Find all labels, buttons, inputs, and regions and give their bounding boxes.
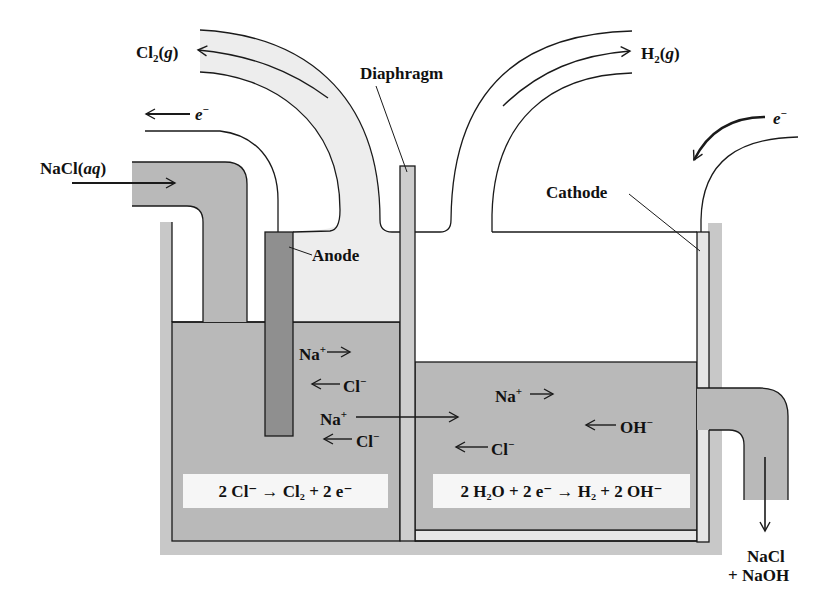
cl2-gas-label: Cl2(g) bbox=[136, 44, 178, 64]
h2-gas-label: H2(g) bbox=[641, 45, 680, 65]
diaphragm bbox=[400, 166, 415, 541]
output-label-line2: + NaOH bbox=[728, 567, 789, 584]
nacl-input-label: NaCl(aq) bbox=[40, 160, 106, 177]
ion-label: Cl− bbox=[491, 439, 514, 458]
cathode-wire bbox=[701, 137, 798, 232]
cathode bbox=[697, 232, 709, 542]
nacl-inlet-pipe bbox=[132, 162, 247, 322]
electrolysis-cell-diagram bbox=[0, 0, 837, 599]
anode-label: Anode bbox=[312, 247, 359, 264]
electron-label-right: e− bbox=[773, 108, 787, 127]
ion-label: Na+ bbox=[320, 409, 347, 428]
ion-label: Cl− bbox=[343, 376, 366, 395]
anode-equation: 2 Cl⁻ → Cl₂ + 2 e⁻ bbox=[183, 474, 388, 508]
ion-label: Na+ bbox=[495, 386, 522, 405]
cathode-equation: 2 H₂O + 2 e⁻ → H₂ + 2 OH⁻ bbox=[433, 474, 690, 508]
electron-label-left: e− bbox=[195, 104, 209, 123]
anode bbox=[265, 232, 293, 436]
output-label-line1: NaCl bbox=[747, 548, 785, 565]
ion-label: OH− bbox=[620, 417, 653, 436]
electron-flow-arrow-right bbox=[694, 117, 765, 160]
diaphragm-label: Diaphragm bbox=[360, 65, 443, 82]
cathode-compartment bbox=[415, 362, 709, 541]
ion-label: Cl− bbox=[356, 431, 379, 450]
cathode-label: Cathode bbox=[546, 184, 607, 201]
ion-label: Na+ bbox=[299, 344, 326, 363]
